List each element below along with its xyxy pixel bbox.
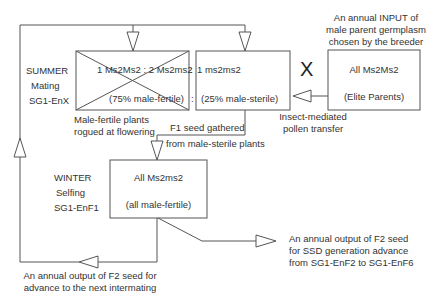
output-intermating-note: An annual output of F2 seed for advance … (20, 270, 160, 294)
arrow-down-icon (127, 32, 139, 51)
f1-note-line2: from male-sterile plants (166, 138, 265, 150)
arrow-down-icon (239, 32, 251, 51)
elite-genotype: All Ms2Ms2 (328, 64, 420, 76)
fertile-percent: (75% male-fertile) (109, 93, 184, 105)
winter-genotype: All Ms2ms2 (110, 172, 207, 184)
rogued-note: Male-fertile plants rogued at flowering (74, 114, 155, 138)
ratio-part1: 1 Ms2Ms2 : 2 Ms2ms2 (97, 64, 193, 76)
winter-label: (all male-fertile) (110, 199, 207, 211)
arrow-down-icon (151, 141, 163, 160)
input-note: An annual INPUT of male parent germplasm… (316, 12, 436, 48)
winter-generation-label: SG1-EnF1 (54, 202, 99, 214)
summer-generation-label: SG1-EnX (29, 95, 69, 107)
ratio-separator: : (190, 64, 193, 76)
winter-season-label: WINTER (54, 172, 91, 184)
winter-activity-label: Selfing (56, 187, 85, 199)
summer-activity-label: Mating (31, 80, 60, 92)
pollen-note: Insect-mediated pollen transfer (268, 111, 358, 135)
elite-label: (Elite Parents) (328, 91, 420, 103)
percent-separator: : (191, 93, 194, 105)
sterile-percent: (25% male-sterile) (201, 93, 278, 105)
arrow-left-icon (293, 90, 311, 102)
ratio-part2: 1 ms2ms2 (197, 64, 241, 76)
output-ssd-note: An annual output of F2 seed for SSD gene… (289, 233, 414, 269)
f1-note-line1: F1 seed gathered (170, 122, 244, 134)
arrow-up-icon (14, 138, 26, 157)
summer-season-label: SUMMER (26, 65, 68, 77)
arrow-right-icon (256, 235, 276, 247)
arrow-left-icon (79, 256, 98, 268)
cross-symbol: X (300, 58, 313, 81)
